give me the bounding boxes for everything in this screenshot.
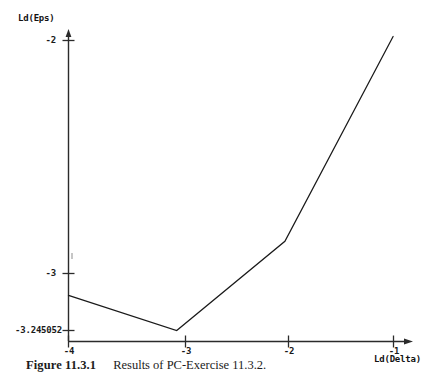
y-axis-label: Ld(Eps): [18, 13, 55, 23]
data-series-line: [69, 37, 394, 331]
figure-caption-label: Figure 11.3.1: [26, 358, 96, 372]
figure-page: Ld(Eps) Ld(Delta) -2 -3 -3.245052 -4 -3 …: [0, 0, 442, 383]
x-tick-label-minus3: -3: [171, 346, 201, 356]
y-tick-label-minus2: -2: [0, 35, 56, 45]
figure-caption-text: Results of PC-Exercise 11.3.2.: [96, 358, 266, 372]
y-tick-label-minus3-245052: -3.245052: [0, 325, 62, 335]
chart-figure: Ld(Eps) Ld(Delta) -2 -3 -3.245052 -4 -3 …: [0, 0, 442, 355]
x-tick-label-minus2: -2: [274, 346, 304, 356]
line-chart-plot: [0, 0, 442, 355]
y-axis: [66, 29, 72, 341]
figure-caption: Figure 11.3.1Results of PC-Exercise 11.3…: [0, 358, 442, 383]
x-axis: [69, 338, 414, 344]
y-tick-label-minus3: -3: [0, 268, 56, 278]
x-tick-label-minus1: -1: [379, 346, 409, 356]
x-tick-label-minus4: -4: [54, 346, 84, 356]
